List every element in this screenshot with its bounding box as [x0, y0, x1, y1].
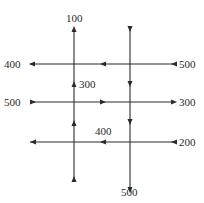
- diagram-svg: 100 400 500 300 500 300 400 200 500: [0, 0, 204, 203]
- arrow-right-icon: [100, 100, 106, 105]
- arrow-left-icon: [171, 62, 177, 67]
- label-v1-mid: 300: [79, 78, 96, 90]
- arrow-right-icon: [171, 100, 177, 105]
- arrow-left-icon: [30, 140, 36, 145]
- label-h3-mid: 400: [95, 125, 112, 137]
- label-h2-left: 500: [4, 96, 21, 108]
- arrow-down-icon: [128, 26, 133, 32]
- label-h1-left: 400: [4, 58, 21, 70]
- arrow-up-icon: [72, 120, 77, 126]
- label-v2-bottom: 500: [121, 186, 138, 198]
- label-h1-right: 500: [179, 58, 196, 70]
- traffic-flow-diagram: 100 400 500 300 500 300 400 200 500: [0, 0, 204, 203]
- label-h2-right: 300: [179, 96, 196, 108]
- arrow-up-icon: [72, 176, 77, 182]
- arrow-up-icon: [72, 26, 77, 32]
- arrow-left-icon: [100, 140, 106, 145]
- arrow-right-icon: [30, 100, 36, 105]
- arrow-left-icon: [171, 140, 177, 145]
- arrow-up-icon: [72, 81, 77, 87]
- arrow-left-icon: [29, 62, 35, 67]
- label-h3-right: 200: [179, 136, 196, 148]
- arrow-left-icon: [100, 62, 106, 67]
- arrow-down-icon: [128, 81, 133, 87]
- arrow-down-icon: [128, 119, 133, 125]
- label-v1-top: 100: [66, 12, 83, 24]
